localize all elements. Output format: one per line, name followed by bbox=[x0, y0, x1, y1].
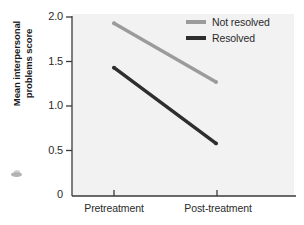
y-tick-label-0-5: 0.5 bbox=[33, 144, 63, 156]
legend-item-not-resolved: Not resolved bbox=[186, 14, 270, 30]
y-axis-title: Mean interpersonal problems score bbox=[11, 1, 34, 126]
x-tick-label-pretreatment: Pretreatment bbox=[64, 202, 164, 214]
y-axis-title-line2: problems score bbox=[23, 29, 34, 98]
chart-legend: Not resolved Resolved bbox=[186, 14, 270, 46]
legend-label-not-resolved: Not resolved bbox=[212, 16, 270, 28]
scan-artifact-smudge-highlight bbox=[14, 170, 20, 174]
chart-figure: Mean interpersonal problems score 2.0 1.… bbox=[0, 0, 304, 225]
legend-item-resolved: Resolved bbox=[186, 30, 270, 46]
series-resolved bbox=[112, 66, 218, 145]
legend-label-resolved: Resolved bbox=[212, 32, 255, 44]
y-tick-label-1-5: 1.5 bbox=[33, 55, 63, 67]
x-tick-label-post-treatment: Post-treatment bbox=[163, 202, 273, 214]
y-axis-title-line1: Mean interpersonal bbox=[11, 21, 22, 106]
legend-swatch-resolved bbox=[186, 36, 206, 40]
y-tick-label-2-0: 2.0 bbox=[33, 10, 63, 22]
legend-swatch-not-resolved bbox=[186, 20, 206, 24]
y-tick-label-0: 0 bbox=[33, 188, 63, 200]
y-tick-label-1-0: 1.0 bbox=[33, 99, 63, 111]
